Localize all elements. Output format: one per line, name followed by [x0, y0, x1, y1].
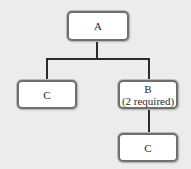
connector-to-left-c	[46, 58, 48, 80]
node-a-label: A	[94, 20, 102, 32]
node-c-left-label: C	[43, 89, 50, 101]
node-b-sublabel: (2 required)	[122, 95, 174, 107]
connector-a-trunk	[96, 40, 98, 60]
connector-to-b	[148, 58, 150, 80]
connector-a-horizontal-bar	[46, 58, 150, 60]
node-c-bottom-label: C	[144, 142, 151, 154]
node-c-left: C	[17, 80, 77, 109]
node-a: A	[67, 11, 129, 41]
connector-b-to-c	[148, 108, 150, 134]
node-b: B (2 required)	[118, 80, 178, 109]
node-b-label: B	[144, 83, 151, 95]
node-c-bottom: C	[118, 133, 178, 162]
